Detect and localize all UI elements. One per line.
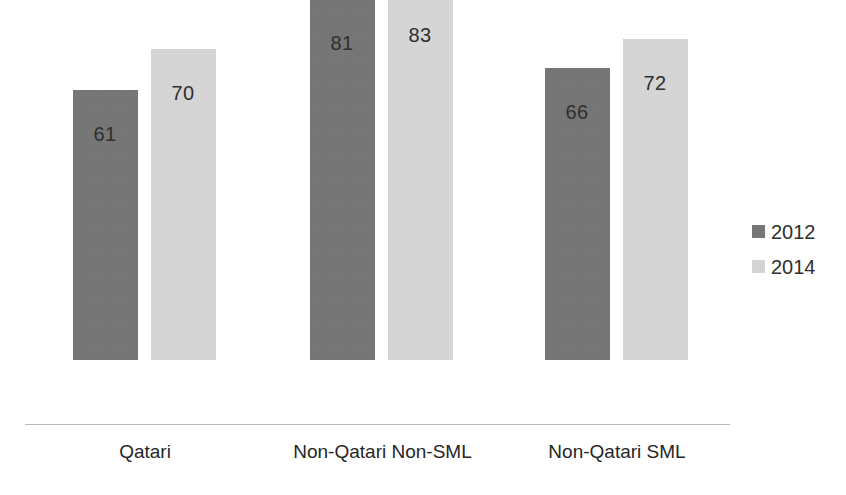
legend-item-2012[interactable]: 2012 xyxy=(752,214,842,249)
legend-label-2014: 2014 xyxy=(771,257,816,277)
category-label-non-qatari-non-sml: Non-Qatari Non-SML xyxy=(275,441,490,463)
x-axis-line xyxy=(25,424,730,425)
chart-legend: 2012 2014 xyxy=(752,214,842,284)
bar-value-non-qatari-sml-2014: 72 xyxy=(620,72,690,95)
bar-value-qatari-2014: 70 xyxy=(148,82,218,105)
category-label-qatari: Qatari xyxy=(75,441,215,463)
bar-value-non-qatari-sml-2012: 66 xyxy=(542,101,612,124)
bar-non-qatari-non-sml-2014[interactable] xyxy=(388,0,453,360)
legend-label-2012: 2012 xyxy=(771,222,816,242)
bar-value-qatari-2012: 61 xyxy=(70,123,140,146)
legend-item-2014[interactable]: 2014 xyxy=(752,249,842,284)
legend-swatch-2012-icon xyxy=(752,225,765,238)
legend-swatch-2014-icon xyxy=(752,260,765,273)
plot-area: 61 70 81 83 66 72 xyxy=(0,0,740,430)
bar-value-non-qatari-non-sml-2014: 83 xyxy=(385,24,455,47)
category-label-non-qatari-sml: Non-Qatari SML xyxy=(527,441,707,463)
bar-value-non-qatari-non-sml-2012: 81 xyxy=(307,32,377,55)
bar-chart: 61 70 81 83 66 72 Qatari Non-Qatari Non-… xyxy=(0,0,846,495)
